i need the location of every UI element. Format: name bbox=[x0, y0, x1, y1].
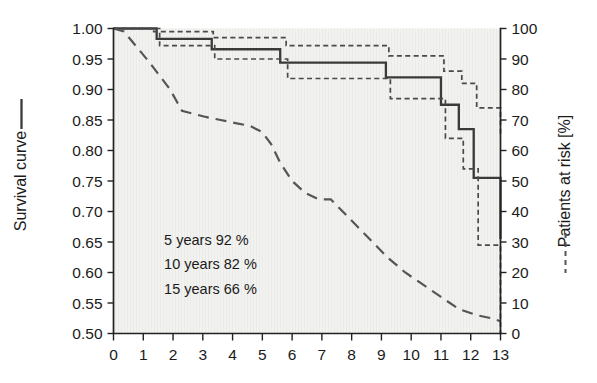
left-axis-tick-label: 0.60 bbox=[72, 264, 103, 281]
survival-annotation: 10 years 82 % bbox=[164, 256, 257, 272]
left-axis-tick-label: 1.00 bbox=[72, 20, 103, 37]
right-axis-tick-label: 10 bbox=[512, 295, 530, 312]
x-axis-tick-label: 13 bbox=[492, 346, 509, 363]
x-axis-tick-label: 1 bbox=[139, 346, 148, 363]
x-axis-tick-label: 6 bbox=[288, 346, 297, 363]
left-axis-tick-label: 0.70 bbox=[72, 203, 103, 220]
survival-curve-figure: 0.500.550.600.650.700.750.800.850.900.95… bbox=[0, 0, 597, 383]
x-axis-tick-label: 4 bbox=[228, 346, 237, 363]
right-axis-title: Patients at risk [%] bbox=[556, 115, 573, 248]
survival-annotation: 5 years 92 % bbox=[164, 232, 249, 248]
annotations-layer: 5 years 92 %10 years 82 %15 years 66 % bbox=[164, 232, 257, 297]
left-axis-title: Survival curve bbox=[12, 131, 29, 232]
right-axis-tick-label: 0 bbox=[512, 325, 521, 342]
right-axis-tick-label: 90 bbox=[512, 51, 530, 68]
left-axis-tick-label: 0.50 bbox=[72, 325, 103, 342]
x-axis-tick-label: 0 bbox=[109, 346, 118, 363]
x-axis-tick-label: 12 bbox=[462, 346, 479, 363]
left-axis-tick-label: 0.55 bbox=[72, 295, 102, 312]
x-axis-tick-label: 2 bbox=[169, 346, 178, 363]
x-axis-tick-label: 7 bbox=[318, 346, 327, 363]
right-axis-tick-label: 70 bbox=[512, 112, 530, 129]
x-axis-tick-label: 11 bbox=[433, 346, 449, 363]
x-axis-tick-label: 5 bbox=[258, 346, 267, 363]
right-axis-tick-label: 60 bbox=[512, 142, 530, 159]
right-axis-tick-label: 40 bbox=[512, 203, 530, 220]
survival-chart-svg: 0.500.550.600.650.700.750.800.850.900.95… bbox=[0, 0, 597, 383]
left-axis-tick-label: 0.75 bbox=[72, 173, 102, 190]
x-axis-tick-label: 10 bbox=[403, 346, 421, 363]
right-axis-tick-label: 80 bbox=[512, 81, 530, 98]
left-axis-tick-label: 0.90 bbox=[72, 81, 103, 98]
right-axis-tick-label: 50 bbox=[512, 173, 530, 190]
left-axis-tick-label: 0.65 bbox=[72, 234, 102, 251]
x-axis-tick-label: 3 bbox=[198, 346, 207, 363]
left-axis-tick-label: 0.95 bbox=[72, 51, 102, 68]
x-axis-tick-label: 9 bbox=[377, 346, 386, 363]
survival-annotation: 15 years 66 % bbox=[164, 281, 257, 297]
right-axis-tick-label: 100 bbox=[512, 20, 538, 37]
x-axis-tick-label: 8 bbox=[347, 346, 356, 363]
left-axis-tick-label: 0.85 bbox=[72, 112, 102, 129]
right-axis-tick-label: 20 bbox=[512, 264, 530, 281]
left-axis-tick-label: 0.80 bbox=[72, 142, 103, 159]
right-axis-tick-label: 30 bbox=[512, 234, 530, 251]
